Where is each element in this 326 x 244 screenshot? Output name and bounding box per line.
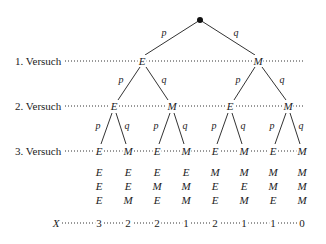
x-value: 3 — [95, 217, 103, 229]
outcome-cell: M — [180, 194, 191, 206]
node-l3: M — [122, 145, 133, 157]
outcome-cell: E — [211, 180, 220, 192]
outcome-cell: M — [238, 194, 249, 206]
branch-q: q — [125, 121, 130, 131]
branch-q: q — [280, 75, 285, 85]
outcome-cell: E — [182, 166, 191, 178]
node-l3: E — [269, 145, 278, 157]
outcome-cell: M — [267, 166, 278, 178]
outcome-cell: M — [180, 180, 191, 192]
node-l2: M — [166, 100, 177, 112]
branch-p: p — [119, 75, 124, 85]
node-l1: M — [252, 55, 263, 67]
outcome-cell: M — [122, 194, 133, 206]
node-l3: M — [296, 145, 307, 157]
outcome-cell: E — [124, 180, 133, 192]
level-3-label: 3. Versuch — [15, 145, 63, 157]
level-1-label: 1. Versuch — [15, 55, 63, 67]
outcome-cell: M — [296, 194, 307, 206]
node-l3: E — [153, 145, 162, 157]
outcome-cell: M — [267, 180, 278, 192]
x-value: 1 — [182, 217, 190, 229]
outcome-cell: E — [153, 194, 162, 206]
branch-q: q — [162, 75, 167, 85]
branch-p: p — [154, 121, 159, 131]
branch-p: p — [96, 121, 101, 131]
branch-p: p — [270, 121, 275, 131]
node-l2: E — [110, 100, 119, 112]
branch-q: q — [234, 28, 239, 38]
outcome-cell: M — [296, 180, 307, 192]
root-node — [197, 17, 203, 23]
outcome-cell: M — [296, 166, 307, 178]
branch-q: q — [299, 121, 304, 131]
node-l3: E — [211, 145, 220, 157]
node-l2: E — [226, 100, 235, 112]
node-l3: E — [95, 145, 104, 157]
branch-p: p — [162, 28, 167, 38]
x-value: 0 — [298, 217, 306, 229]
node-l2: M — [282, 100, 293, 112]
branch-p: p — [212, 121, 217, 131]
x-value: 2 — [153, 217, 161, 229]
node-l3: M — [238, 145, 249, 157]
outcome-cell: M — [238, 166, 249, 178]
branch-q: q — [241, 121, 246, 131]
outcome-cell: E — [124, 166, 133, 178]
outcome-cell: M — [151, 180, 162, 192]
level-2-label: 2. Versuch — [15, 100, 63, 112]
outcome-cell: E — [240, 180, 249, 192]
x-value: 1 — [269, 217, 277, 229]
branch-p: p — [236, 75, 241, 85]
x-value: 2 — [124, 217, 132, 229]
outcome-cell: E — [269, 194, 278, 206]
x-value: 1 — [240, 217, 248, 229]
x-value: 2 — [211, 217, 219, 229]
outcome-cell: E — [153, 166, 162, 178]
outcome-cell: E — [95, 166, 104, 178]
x-label: X — [52, 217, 61, 229]
node-l1: E — [138, 55, 147, 67]
outcome-cell: E — [95, 180, 104, 192]
outcome-cell: M — [209, 166, 220, 178]
outcome-cell: E — [95, 194, 104, 206]
node-l3: M — [180, 145, 191, 157]
branch-q: q — [183, 121, 188, 131]
outcome-cell: E — [211, 194, 220, 206]
